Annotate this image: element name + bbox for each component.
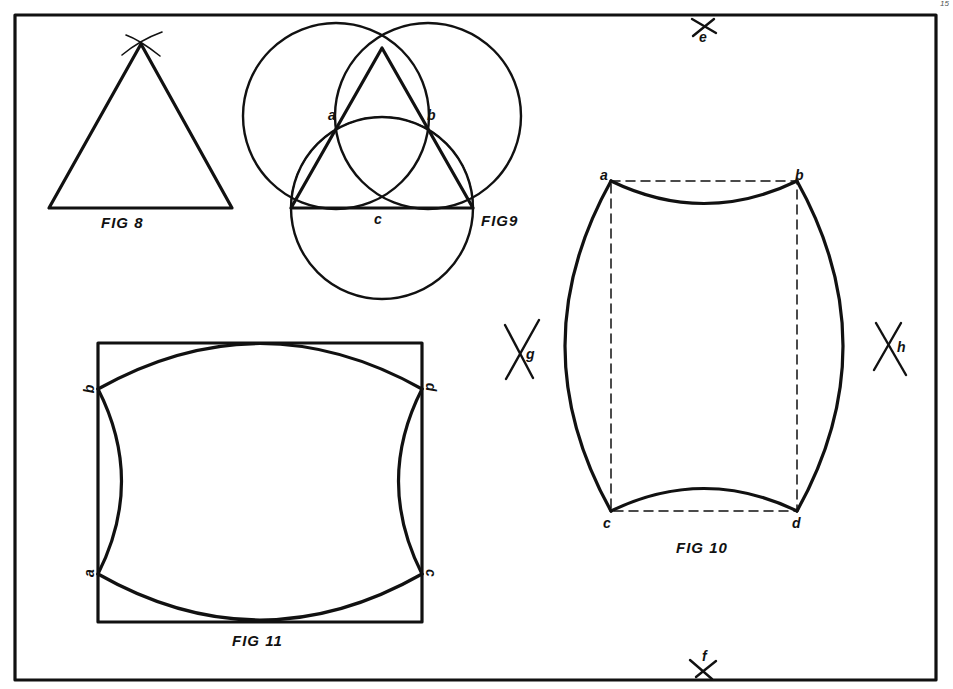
sheet-border bbox=[15, 15, 936, 680]
fig11-caption: FIG 11 bbox=[232, 633, 283, 648]
fig11-right-arc bbox=[399, 389, 423, 574]
fig9-point-c: c bbox=[374, 212, 382, 226]
fig11-point-a: a bbox=[82, 569, 96, 577]
fig8-drawing bbox=[49, 32, 232, 208]
fig9-drawing bbox=[243, 23, 521, 299]
fig10-left-arc bbox=[565, 181, 611, 511]
fig11-point-d: d bbox=[424, 383, 438, 392]
mark-g-label: g bbox=[526, 347, 535, 361]
fig11-point-c: c bbox=[424, 569, 438, 577]
mark-f-label: f bbox=[702, 649, 707, 663]
fig10-point-d: d bbox=[792, 516, 801, 530]
fig11-drawing bbox=[98, 343, 422, 622]
fig10-bottom-arc bbox=[611, 489, 797, 512]
fig9-point-b: b bbox=[427, 108, 436, 122]
drawing-sheet bbox=[0, 0, 953, 689]
fig11-bottom-arc bbox=[98, 574, 422, 620]
fig10-point-b: b bbox=[795, 168, 804, 182]
fig9-triangle bbox=[291, 48, 473, 208]
fig10-top-arc bbox=[611, 181, 797, 204]
fig11-top-arc bbox=[98, 344, 422, 390]
page-number-mark: 15 bbox=[940, 0, 949, 8]
fig11-rect bbox=[98, 343, 422, 622]
fig10-dashed-rect bbox=[611, 181, 797, 511]
fig10-right-arc bbox=[797, 181, 843, 511]
fig11-point-b: b bbox=[82, 385, 96, 394]
fig10-drawing bbox=[565, 181, 843, 511]
fig11-left-arc bbox=[98, 389, 122, 574]
mark-h-label: h bbox=[897, 340, 906, 354]
fig10-point-c: c bbox=[603, 516, 611, 530]
fig8-triangle bbox=[49, 44, 232, 208]
fig9-caption: FIG9 bbox=[481, 213, 518, 228]
mark-e-label: e bbox=[699, 30, 707, 44]
fig8-caption: FIG 8 bbox=[101, 215, 144, 230]
fig10-point-a: a bbox=[600, 168, 608, 182]
fig10-caption: FIG 10 bbox=[676, 540, 728, 555]
fig9-point-a: a bbox=[328, 108, 336, 122]
